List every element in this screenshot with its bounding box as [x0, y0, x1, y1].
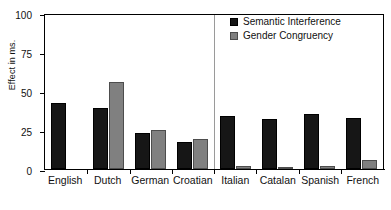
y-tick-label-75: 75	[21, 49, 32, 60]
x-axis-labels: EnglishDutchGermanCroatianItalianCatalan…	[44, 174, 384, 186]
bar-dutch-gender-congruency	[109, 82, 124, 169]
bar-chart: Effect in ms. 0 25 50 75 100 EnglishDutc…	[0, 0, 391, 210]
x-axis-label-spanish: Spanish	[299, 174, 342, 186]
bar-group-croatian	[172, 15, 214, 169]
x-axis-label-german: German	[129, 174, 172, 186]
x-axis-label-french: French	[342, 174, 385, 186]
bar-group-english	[45, 15, 87, 169]
bar-italian-gender-congruency	[236, 166, 251, 169]
bar-italian-semantic-interference	[220, 116, 235, 169]
bar-group-german	[130, 15, 172, 169]
x-axis-label-catalan: Catalan	[257, 174, 300, 186]
bar-dutch-semantic-interference	[93, 108, 108, 169]
y-tick-label-100: 100	[15, 10, 32, 21]
legend-item-semantic-interference: Semantic Interference	[230, 16, 341, 27]
bar-english-semantic-interference	[51, 103, 66, 169]
bar-spanish-semantic-interference	[304, 114, 319, 169]
dark-square-icon	[230, 18, 238, 26]
bar-spanish-gender-congruency	[320, 166, 335, 169]
bar-german-gender-congruency	[151, 130, 166, 169]
bar-catalan-semantic-interference	[262, 119, 277, 169]
x-axis-label-croatian: Croatian	[172, 174, 215, 186]
x-axis-label-english: English	[44, 174, 87, 186]
y-tick-0: 0	[40, 171, 45, 172]
legend: Semantic Interference Gender Congruency	[228, 14, 343, 43]
bar-croatian-gender-congruency	[193, 139, 208, 169]
legend-item-gender-congruency: Gender Congruency	[230, 30, 341, 41]
bar-french-semantic-interference	[346, 118, 361, 169]
x-axis-label-italian: Italian	[214, 174, 257, 186]
bar-french-gender-congruency	[362, 160, 377, 169]
y-axis-title: Effect in ms.	[7, 20, 17, 110]
gray-square-icon	[230, 32, 238, 40]
y-tick-label-25: 25	[21, 127, 32, 138]
legend-label-gender-congruency: Gender Congruency	[243, 30, 333, 41]
y-tick-label-50: 50	[21, 88, 32, 99]
bar-german-semantic-interference	[135, 133, 150, 169]
bar-group-dutch	[87, 15, 129, 169]
legend-label-semantic-interference: Semantic Interference	[243, 16, 341, 27]
x-axis-label-dutch: Dutch	[87, 174, 130, 186]
y-tick-label-0: 0	[26, 166, 32, 177]
bar-catalan-gender-congruency	[278, 167, 293, 169]
bar-group-french	[341, 15, 383, 169]
bar-croatian-semantic-interference	[177, 142, 192, 169]
family-divider-line	[214, 15, 215, 169]
